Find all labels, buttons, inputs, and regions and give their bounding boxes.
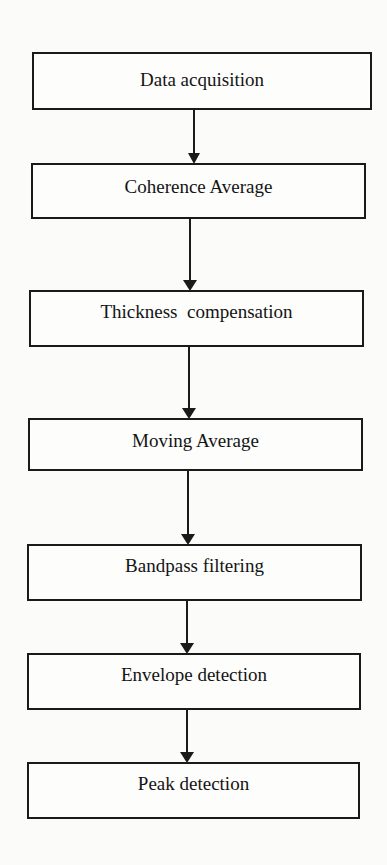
step-coherence-average: Coherence Average	[31, 163, 366, 219]
arrow-down-icon	[180, 601, 194, 654]
step-data-acquisition: Data acquisition	[32, 52, 372, 110]
step-label: Bandpass filtering	[125, 556, 264, 575]
flowchart: Data acquisition Coherence Average Thick…	[0, 0, 387, 865]
arrow-down-icon	[180, 710, 194, 763]
step-envelope-detection: Envelope detection	[27, 653, 361, 710]
step-label: Thickness compensation	[100, 302, 292, 321]
step-thickness-compensation: Thickness compensation	[29, 290, 364, 347]
step-label: Envelope detection	[121, 665, 267, 684]
step-label: Coherence Average	[125, 177, 273, 196]
step-bandpass-filtering: Bandpass filtering	[27, 544, 362, 601]
step-label: Moving Average	[132, 431, 259, 450]
step-peak-detection: Peak detection	[27, 762, 360, 819]
step-moving-average: Moving Average	[28, 418, 363, 471]
arrow-down-icon	[188, 110, 200, 164]
step-label: Data acquisition	[140, 70, 264, 89]
arrow-down-icon	[183, 219, 197, 291]
arrow-down-icon	[182, 347, 196, 419]
step-label: Peak detection	[138, 774, 249, 793]
arrow-down-icon	[181, 471, 195, 545]
